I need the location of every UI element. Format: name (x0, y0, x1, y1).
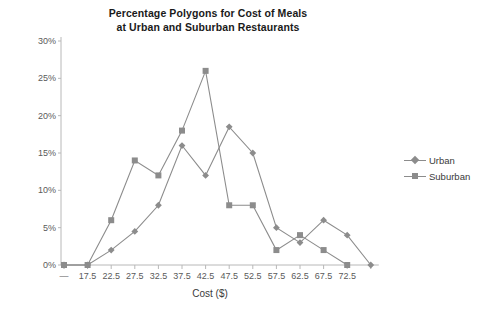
legend-item-suburban[interactable]: Suburban (404, 168, 492, 184)
x-axis-tick-labels: —17.522.527.532.537.542.547.552.557.562.… (0, 271, 494, 285)
x-tick-label: 57.5 (268, 271, 286, 281)
chart-container: Percentage Polygons for Cost of Meals at… (0, 0, 494, 313)
x-tick-label: 42.5 (197, 271, 215, 281)
x-tick-label: 27.5 (126, 271, 144, 281)
x-tick-label: 22.5 (102, 271, 120, 281)
legend-marker-square-icon (404, 171, 426, 181)
y-tick-label: 15% (16, 148, 56, 158)
x-tick-label: 17.5 (79, 271, 97, 281)
x-tick-label: 52.5 (244, 271, 262, 281)
x-tick-label: — (60, 271, 69, 281)
x-tick-label: 32.5 (150, 271, 168, 281)
x-axis-title: Cost ($) (0, 288, 420, 299)
y-tick-label: 25% (16, 73, 56, 83)
legend-label-suburban: Suburban (429, 171, 470, 182)
y-axis-tick-labels: 0%5%10%15%20%25%30% (14, 0, 56, 313)
y-tick-label: 20% (16, 111, 56, 121)
y-tick-label: 5% (16, 223, 56, 233)
x-tick-label: 62.5 (291, 271, 309, 281)
legend-item-urban[interactable]: Urban (404, 152, 492, 168)
chart-legend: Urban Suburban (404, 152, 492, 184)
x-tick-label: 67.5 (315, 271, 333, 281)
x-tick-label: 37.5 (173, 271, 191, 281)
y-tick-label: 30% (16, 36, 56, 46)
x-tick-label: 47.5 (220, 271, 238, 281)
legend-marker-diamond-icon (404, 155, 426, 165)
legend-label-urban: Urban (429, 155, 455, 166)
y-tick-label: 0% (16, 260, 56, 270)
y-tick-label: 10% (16, 185, 56, 195)
x-tick-label: 72.5 (338, 271, 356, 281)
